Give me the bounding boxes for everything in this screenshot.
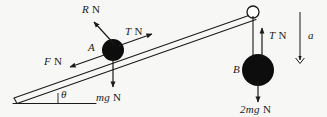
- body-b: [242, 54, 274, 86]
- body-b-label: B: [233, 64, 240, 75]
- horizontal-base-line: [13, 93, 96, 104]
- friction-force-label: F N: [44, 56, 62, 67]
- free-body-diagram-figure: R N T N F N mg N T N 2mg N A B θ a: [0, 0, 327, 117]
- weight-of-b-label: 2mg N: [240, 104, 271, 115]
- body-a-label: A: [88, 42, 95, 53]
- tension-on-b-label: T N: [269, 30, 287, 41]
- normal-force-label: R N: [82, 4, 100, 15]
- acceleration-vector: [296, 12, 305, 64]
- normal-force-vector: [94, 22, 115, 45]
- incline-angle-label: θ: [61, 89, 67, 100]
- acceleration-label: a: [308, 30, 314, 41]
- tension-on-a-label: T N: [125, 26, 143, 37]
- friction-force-vector: [70, 54, 107, 67]
- weight-of-a-label: mg N: [96, 92, 121, 103]
